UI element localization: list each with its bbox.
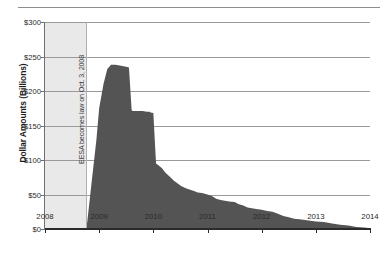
y-tick-label: $250 — [1, 52, 41, 61]
y-tick-label: $50 — [1, 190, 41, 199]
y-tick-mark — [41, 22, 45, 23]
x-tick-label: 2011 — [186, 212, 230, 221]
x-tick-label: 2009 — [77, 212, 121, 221]
x-tick-label: 2010 — [131, 212, 175, 221]
y-tick-mark — [41, 91, 45, 92]
y-tick-label: $150 — [1, 121, 41, 130]
x-tick-mark — [208, 229, 209, 233]
y-tick-mark — [41, 57, 45, 58]
x-tick-mark — [370, 229, 371, 233]
x-tick-label: 2014 — [348, 212, 390, 221]
x-tick-mark — [262, 229, 263, 233]
y-tick-mark — [41, 126, 45, 127]
y-tick-label: $200 — [1, 87, 41, 96]
y-tick-label: $300 — [1, 18, 41, 27]
area-series-path — [86, 65, 370, 229]
eesa-annotation-label: EESA becomes law on Oct. 3, 2008 — [77, 55, 86, 164]
x-tick-label: 2008 — [23, 212, 67, 221]
top-divider-rule — [18, 7, 380, 8]
x-tick-label: 2012 — [240, 212, 284, 221]
y-tick-label: $0 — [1, 225, 41, 234]
y-tick-mark — [41, 195, 45, 196]
x-tick-mark — [45, 229, 46, 233]
y-tick-label: $100 — [1, 156, 41, 165]
x-tick-mark — [316, 229, 317, 233]
x-tick-mark — [99, 229, 100, 233]
plot-area: EESA becomes law on Oct. 3, 2008 — [45, 22, 370, 229]
y-tick-mark — [41, 160, 45, 161]
chart-figure: Dollar Amounts (Billions) EESA becomes l… — [0, 0, 390, 258]
x-tick-label: 2013 — [294, 212, 338, 221]
x-tick-mark — [153, 229, 154, 233]
area-series-svg — [45, 22, 370, 229]
